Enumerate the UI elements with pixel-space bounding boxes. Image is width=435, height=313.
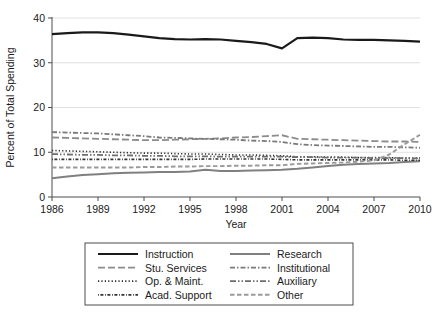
y-tick-label: 40 [33, 12, 45, 24]
x-tick-label: 1986 [40, 203, 64, 215]
chart-canvas: 0102030401986198919921995199820012004200… [0, 0, 435, 313]
legend-label: Institutional [277, 262, 330, 274]
legend-label: Instruction [145, 248, 194, 260]
legend-label: Op. & Maint. [145, 275, 203, 287]
x-axis-title: Year [225, 218, 247, 230]
x-tick-label: 1989 [86, 203, 110, 215]
legend-label: Auxiliary [277, 275, 317, 287]
y-tick-label: 10 [33, 146, 45, 158]
x-tick-label: 2001 [270, 203, 294, 215]
y-tick-label: 0 [39, 191, 45, 203]
x-tick-label: 1995 [178, 203, 202, 215]
y-tick-label: 20 [33, 101, 45, 113]
legend-label: Other [277, 289, 304, 301]
x-tick-label: 2010 [408, 203, 432, 215]
x-tick-label: 1992 [132, 203, 156, 215]
y-axis-title: Percent of Total Spending [4, 47, 16, 167]
legend-label: Research [277, 248, 322, 260]
x-tick-label: 2004 [316, 203, 340, 215]
legend-label: Acad. Support [145, 289, 212, 301]
x-tick-label: 2007 [362, 203, 386, 215]
legend-label: Stu. Services [145, 262, 207, 274]
chart-figure: 0102030401986198919921995199820012004200… [0, 0, 435, 313]
chart-legend: InstructionResearchStu. ServicesInstitut… [85, 243, 353, 305]
x-tick-label: 1998 [224, 203, 248, 215]
y-tick-label: 30 [33, 57, 45, 69]
